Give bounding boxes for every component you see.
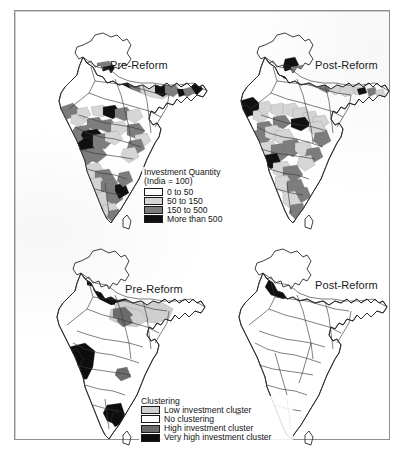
panel-label-pre-reform-clustering: Pre-Reform	[125, 283, 183, 295]
legend-swatch-0-to-50	[144, 188, 163, 196]
choropleth-districts-top-right	[233, 57, 385, 219]
scan-artifact-mark: er	[236, 410, 241, 416]
panel-label-post-reform-clustering: Post-Reform	[315, 279, 378, 291]
legend-label-0-to-50: 0 to 50	[167, 188, 193, 197]
legend-swatch-high-investment-cluster	[141, 425, 160, 433]
legend-investment-subtitle: (India = 100)	[144, 177, 248, 186]
legend-item-0-to-50: 0 to 50	[144, 188, 248, 197]
legend-swatch-150-to-500	[144, 206, 163, 214]
legend-item-more-than-500: More than 500	[144, 215, 248, 224]
legend-clustering: Clustering Low investment cluster No clu…	[139, 396, 293, 443]
panel-label-pre-reform-investment: Pre-Reform	[110, 59, 168, 71]
legend-swatch-more-than-500	[144, 215, 163, 223]
panel-label-post-reform-investment: Post-Reform	[315, 59, 378, 71]
legend-swatch-50-to-150	[144, 197, 163, 205]
legend-item-very-high-investment-cluster: Very high investment cluster	[141, 433, 291, 442]
legend-label-very-high-investment-cluster: Very high investment cluster	[164, 433, 271, 442]
legend-investment-quantity: Investment Quantity (India = 100) 0 to 5…	[142, 167, 250, 225]
legend-label-more-than-500: More than 500	[167, 215, 222, 224]
legend-swatch-no-clustering	[141, 415, 160, 423]
legend-swatch-low-investment-cluster	[141, 406, 160, 414]
legend-swatch-very-high-investment-cluster	[141, 434, 160, 442]
figure-frame: Pre-Reform	[14, 10, 390, 440]
